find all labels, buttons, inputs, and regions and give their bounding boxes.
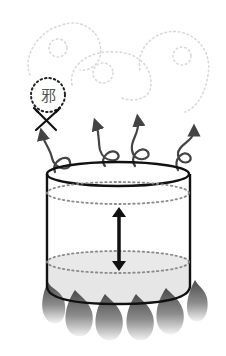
evil-kanji: 邪 <box>41 87 56 105</box>
steam-spiral-2 <box>96 124 119 166</box>
steam-spiral-4 <box>176 130 194 170</box>
forbidden-symbol: 邪 <box>31 78 65 130</box>
cloud-left <box>28 23 101 75</box>
arrow-up-icon <box>112 207 126 217</box>
steam-spiral-3 <box>132 120 149 166</box>
steam <box>42 120 194 172</box>
pot-diagram: 邪 <box>0 0 226 356</box>
cloud-right <box>139 31 208 112</box>
level-drop-arrow <box>112 207 126 271</box>
pot-rim <box>47 162 189 186</box>
